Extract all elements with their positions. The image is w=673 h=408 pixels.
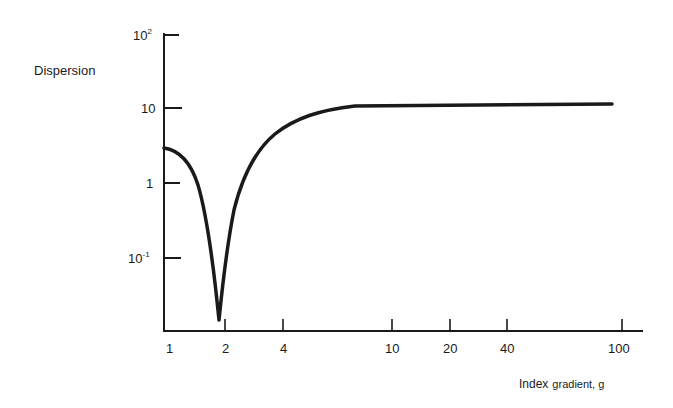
dispersion-chart: 102 10 1 10-1 Dispersion 1 2 4 10 20 40 … [0, 0, 673, 408]
y-axis-title: Dispersion [34, 63, 95, 78]
y-tick-label-1: 1 [146, 176, 153, 191]
x-tick-label-100: 100 [608, 341, 630, 356]
x-tick-label-10: 10 [385, 341, 399, 356]
x-tick-label-20: 20 [443, 341, 457, 356]
y-tick-label-10: 10 [141, 101, 155, 116]
dispersion-curve [164, 104, 612, 320]
y-ticks [164, 35, 182, 258]
x-tick-label-1: 1 [166, 341, 173, 356]
x-tick-label-2: 2 [222, 341, 229, 356]
x-axis-title: Indexgradient, g [519, 377, 604, 391]
x-tick-label-40: 40 [500, 341, 514, 356]
y-tick-label-100: 102 [133, 27, 152, 43]
x-ticks [225, 319, 622, 331]
x-tick-label-4: 4 [280, 341, 287, 356]
y-tick-label-0-1: 10-1 [128, 250, 150, 266]
